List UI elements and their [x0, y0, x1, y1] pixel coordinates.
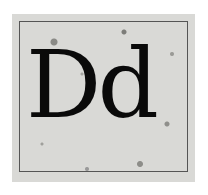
- letter-pair: Dd: [26, 36, 155, 132]
- lowercase-letter: d: [97, 28, 154, 140]
- uppercase-letter: D: [26, 30, 97, 139]
